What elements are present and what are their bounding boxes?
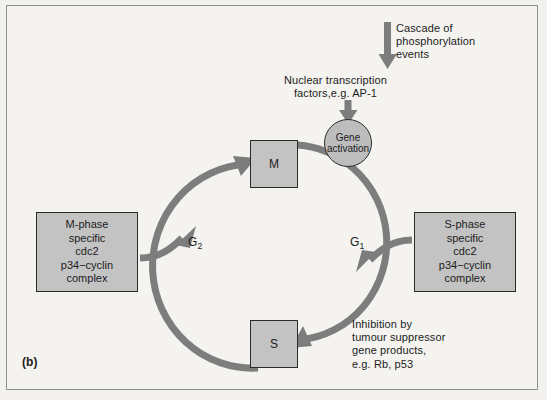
gene-activation-node: Gene activation: [324, 119, 372, 167]
cascade-annotation: Cascade of phosphorylation events: [396, 22, 475, 62]
panel-label: (b): [22, 356, 38, 369]
s-phase-node: S: [250, 320, 298, 368]
arrow-cascade-to-nuclear: [379, 22, 398, 69]
m-phase-complex-box: M-phase specific cdc2 p34−cyclin complex: [36, 212, 138, 292]
inhibition-annotation: Inhibition by tumour suppressor gene pro…: [352, 318, 445, 371]
m-phase-node: M: [250, 140, 298, 188]
figure-panel: Cascade of phosphorylation events Nuclea…: [0, 0, 547, 400]
g2-label: G2: [188, 236, 202, 254]
g1-label-subscript: 1: [359, 241, 364, 251]
g2-label-subscript: 2: [197, 241, 202, 251]
s-phase-complex-box: S-phase specific cdc2 p34−cyclin complex: [414, 212, 516, 292]
nuclear-transcription-annotation: Nuclear transcription factors,e.g. AP-1: [284, 74, 387, 100]
g1-label: G1: [350, 236, 364, 254]
